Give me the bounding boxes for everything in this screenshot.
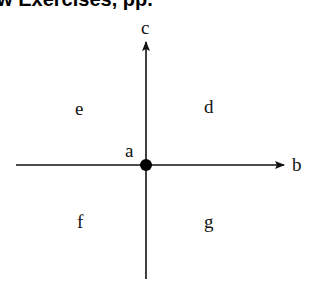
label-g: g <box>204 211 214 232</box>
label-e: e <box>75 98 83 119</box>
axes-diagram: c b a e d f g <box>0 0 314 282</box>
label-f: f <box>77 211 84 232</box>
label-c: c <box>141 17 149 38</box>
origin-point-a <box>140 159 152 171</box>
label-a: a <box>125 140 134 161</box>
label-d: d <box>204 96 214 117</box>
label-b: b <box>292 154 302 175</box>
